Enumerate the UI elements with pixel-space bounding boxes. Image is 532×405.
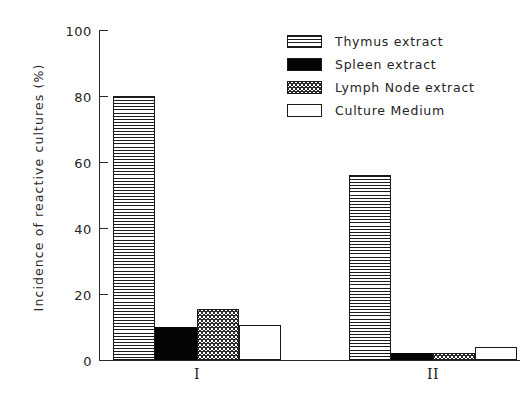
tick-label: 40 [74,221,92,236]
tick-label: 0 [83,353,92,368]
chart-legend: Thymus extractSpleen extractLymph Node e… [287,30,475,122]
bar-i-spleen-extract [155,327,197,360]
bar-ii-spleen-extract [391,353,433,360]
group-label-i: I [194,366,200,382]
legend-item-label: Culture Medium [335,103,445,118]
x-axis-line [99,360,520,361]
swatch-horizontal-lines-icon [287,35,322,48]
swatch-white-outline-icon [287,104,322,117]
bar-i-lymph-node-extract [197,309,239,360]
legend-item: Culture Medium [287,99,475,122]
bar-i-thymus-extract [113,96,155,360]
swatch-stippled-icon [287,81,322,94]
legend-item: Lymph Node extract [287,76,475,99]
legend-item-label: Lymph Node extract [335,80,475,95]
y-axis-tick: 0 [99,360,108,361]
tick-label: 80 [74,89,92,104]
bar-ii-thymus-extract [349,175,391,360]
tick-label: 60 [74,155,92,170]
tick-label: 100 [65,23,92,38]
tick-label: 20 [74,287,92,302]
legend-item-label: Thymus extract [335,34,443,49]
legend-item: Spleen extract [287,53,475,76]
bar-ii-lymph-node-extract [433,353,475,360]
bar-i-culture-medium [239,325,281,360]
tick-mark [99,360,108,361]
group-label-ii: II [427,366,439,382]
legend-item-label: Spleen extract [335,57,436,72]
bar-chart: Incidence of reactive cultures (%) 10080… [0,0,532,405]
legend-item: Thymus extract [287,30,475,53]
swatch-solid-black-icon [287,58,322,71]
y-axis-title: Incidence of reactive cultures (%) [31,38,46,338]
bar-ii-culture-medium [475,347,517,360]
